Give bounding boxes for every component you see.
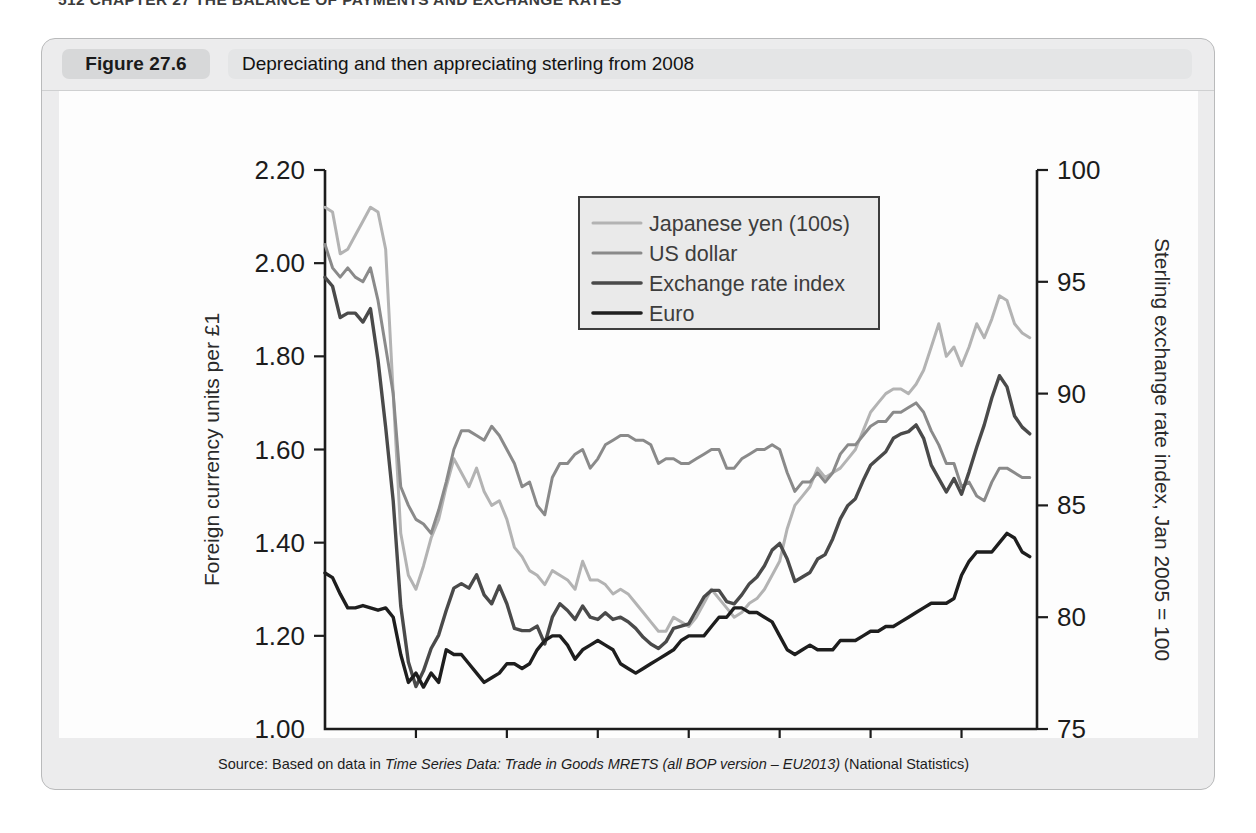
y2-tick-label: 80 [1057, 602, 1086, 632]
y-tick-label: 1.60 [254, 435, 305, 465]
source-suffix: (National Statistics) [840, 756, 969, 772]
figure-number-tag: Figure 27.6 [62, 49, 210, 79]
line-chart: 1.001.201.401.601.802.002.20758085909510… [59, 91, 1198, 738]
y2-tick-label: 90 [1057, 379, 1086, 409]
figure-header: Figure 27.6 Depreciating and then apprec… [42, 39, 1214, 91]
source-note: Source: Based on data in Time Series Dat… [218, 756, 969, 772]
plot-canvas: 1.001.201.401.601.802.002.20758085909510… [59, 91, 1198, 738]
y-tick-label: 1.00 [254, 714, 305, 738]
y-tick-label: 1.80 [254, 341, 305, 371]
legend-label: Euro [649, 302, 694, 326]
y2-tick-label: 75 [1057, 714, 1086, 738]
series-line-exchange-rate-index [325, 277, 1030, 686]
y-tick-label: 1.40 [254, 528, 305, 558]
figure-box: Figure 27.6 Depreciating and then apprec… [41, 38, 1215, 790]
figure-caption: Depreciating and then appreciating sterl… [228, 49, 1192, 79]
y2-tick-label: 95 [1057, 267, 1086, 297]
legend-label: Exchange rate index [649, 272, 845, 296]
series-line-euro [325, 533, 1030, 687]
legend-label: Japanese yen (100s) [649, 212, 850, 236]
source-title: Time Series Data: Trade in Goods MRETS (… [385, 756, 840, 772]
y-tick-label: 2.00 [254, 248, 305, 278]
y-axis-title: Foreign currency units per £1 [200, 313, 223, 586]
source-prefix: Source: Based on data in [218, 756, 385, 772]
running-head: 512 CHAPTER 27 THE BALANCE OF PAYMENTS A… [58, 0, 622, 9]
y-tick-label: 1.20 [254, 621, 305, 651]
y2-tick-label: 85 [1057, 490, 1086, 520]
y2-tick-label: 100 [1057, 155, 1100, 185]
y-tick-label: 2.20 [254, 155, 305, 185]
y2-axis-title: Sterling exchange rate index, Jan 2005 =… [1151, 238, 1174, 661]
legend-label: US dollar [649, 242, 737, 266]
